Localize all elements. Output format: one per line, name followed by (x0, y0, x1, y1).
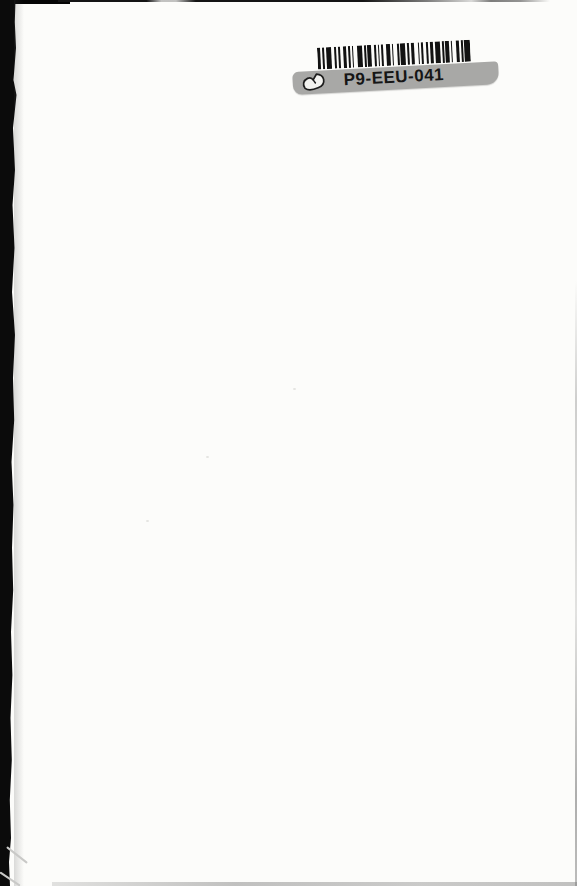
scan-edge-top-line (58, 0, 550, 2)
scan-speck (293, 388, 296, 390)
publisher-logo-icon (300, 71, 327, 93)
scan-speck (206, 456, 209, 458)
scanned-page: P9-EEU-041 (0, 0, 577, 886)
scan-speck (146, 520, 149, 522)
bottom-edge-shadow (52, 882, 577, 886)
barcode-sticker: P9-EEU-041 (291, 38, 499, 95)
sticker-code-text: P9-EEU-041 (343, 66, 444, 88)
left-edge-shadow (14, 0, 24, 886)
